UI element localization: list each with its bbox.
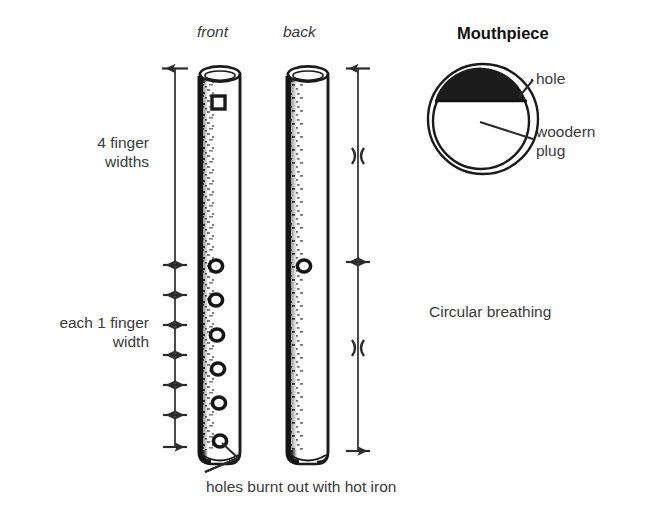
- flute-construction-diagram: front back Mouthpiece 4 finger widths ea…: [0, 0, 655, 520]
- tube-front: [200, 66, 240, 464]
- thumb-hole-back: [297, 260, 310, 272]
- mouthpiece-cross-section: [428, 64, 538, 174]
- dimension-line-left: [162, 69, 188, 448]
- dimension-line-right: [346, 69, 370, 452]
- diagram-artwork: [0, 0, 655, 520]
- mouth-hole-square: [212, 96, 225, 109]
- tube-back: [288, 66, 328, 464]
